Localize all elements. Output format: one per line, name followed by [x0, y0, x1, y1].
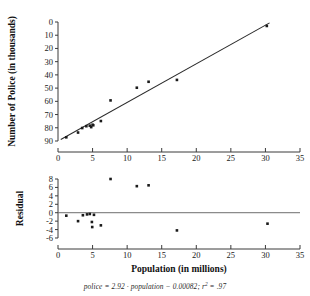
residual-x-axis-title: Population (in millions) [131, 264, 227, 275]
residual-data-point [136, 185, 139, 188]
scatter-data-point [100, 120, 103, 123]
residual-data-point [89, 213, 92, 216]
scatter-plot-group: 908070605040302010005101520253035Number … [7, 16, 304, 163]
residual-data-point [176, 229, 179, 232]
caption-eq2: = [208, 282, 217, 291]
scatter-x-ticklabel: 30 [261, 153, 270, 163]
scatter-x-ticklabel: 0 [56, 153, 60, 163]
scatter-x-ticklabel: 20 [192, 153, 201, 163]
residual-data-point [91, 221, 94, 224]
residual-data-point [100, 224, 103, 227]
scatter-fit-line [61, 23, 270, 140]
scatter-y-ticklabel: 20 [45, 43, 54, 53]
residual-data-point [147, 184, 150, 187]
scatter-x-ticklabel: 15 [157, 153, 166, 163]
caption-xvar: population [131, 282, 164, 291]
residual-x-ticklabel: 30 [261, 250, 270, 260]
scatter-data-point [85, 125, 88, 128]
residual-data-point [77, 220, 80, 223]
residual-x-ticklabel: 25 [227, 250, 236, 260]
scatter-x-ticklabel: 35 [296, 153, 305, 163]
scatter-data-point [65, 136, 68, 139]
residual-x-ticklabel: 15 [157, 250, 166, 260]
scatter-data-point [92, 124, 95, 127]
caption-minus: − [164, 282, 173, 291]
residual-data-point [109, 178, 112, 181]
residual-data-point [266, 222, 269, 225]
scatter-y-ticklabel: 60 [45, 96, 54, 106]
scatter-data-point [176, 79, 179, 82]
residual-x-ticklabel: 5 [90, 250, 94, 260]
figure-container: 908070605040302010005101520253035Number … [0, 0, 310, 296]
scatter-data-point [77, 131, 80, 134]
caption-intercept: 0.00082 [173, 282, 198, 291]
scatter-data-point [81, 127, 84, 130]
residual-y-axis-title: Residual [15, 190, 25, 226]
residual-data-point [65, 214, 68, 217]
scatter-y-ticklabel: 30 [45, 57, 54, 67]
caption-lhs: police [84, 282, 103, 291]
scatter-x-ticklabel: 5 [90, 153, 94, 163]
residual-y-ticklabel: -6 [46, 233, 53, 243]
scatter-y-ticklabel: 70 [45, 110, 54, 120]
scatter-y-ticklabel: 90 [45, 136, 54, 146]
scatter-x-ticklabel: 25 [227, 153, 236, 163]
scatter-y-ticklabel: 40 [45, 70, 54, 80]
residual-x-ticklabel: 10 [123, 250, 132, 260]
residual-data-point [93, 214, 96, 217]
scatter-y-ticklabel: 80 [45, 123, 54, 133]
scatter-data-point [109, 99, 112, 102]
scatter-and-residual-plots: 908070605040302010005101520253035Number … [0, 0, 310, 296]
figure-caption: police = 2.92 · population − 0.00082; r2… [0, 281, 310, 291]
residual-data-point [82, 214, 85, 217]
scatter-y-axis-title: Number of Police (in thousands) [7, 16, 18, 147]
residual-plot-group: 86420-2-4-605101520253035ResidualPopulat… [15, 174, 304, 275]
scatter-y-ticklabel: 0 [49, 17, 53, 27]
scatter-x-ticklabel: 10 [123, 153, 132, 163]
residual-x-ticklabel: 20 [192, 250, 201, 260]
caption-r-value: .97 [217, 282, 227, 291]
scatter-y-ticklabel: 50 [45, 83, 54, 93]
caption-slope: 2.92 [111, 282, 124, 291]
scatter-data-point [266, 25, 269, 28]
scatter-data-point [136, 86, 139, 89]
residual-data-point [91, 226, 94, 229]
scatter-data-point [147, 80, 150, 83]
scatter-y-ticklabel: 10 [45, 30, 54, 40]
residual-x-ticklabel: 0 [56, 250, 60, 260]
residual-x-ticklabel: 35 [296, 250, 305, 260]
residual-data-point [86, 213, 89, 216]
